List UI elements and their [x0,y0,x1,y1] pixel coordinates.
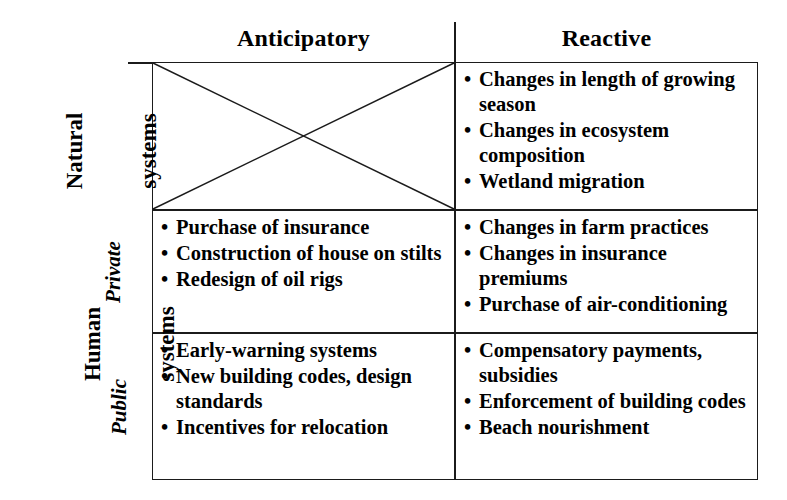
row-sub-label-public: Public [109,357,135,457]
adaptation-matrix: Anticipatory Reactive Natural systems Hu… [0,0,787,500]
row-group-label-human-systems: Human systems [31,249,91,439]
top-rule-extension [128,62,154,64]
list-item: Compensatory payments, subsidies [464,338,752,388]
list-item: Changes in ecosystem composition [464,118,752,168]
list-item: Changes in length of growing season [464,67,752,117]
list-item: Changes in farm practices [464,215,752,240]
list-item: Purchase of air-conditioning [464,292,752,317]
bullet-list-public-reactive: Compensatory payments, subsidies Enforce… [464,338,752,440]
bullet-list-public-anticipatory: Early-warning systems New building codes… [161,338,448,440]
list-item: Construction of house on stilts [161,241,448,266]
list-item: Purchase of insurance [161,215,448,240]
cell-natural-reactive: Changes in length of growing season Chan… [456,63,758,209]
bullet-list-natural-reactive: Changes in length of growing season Chan… [464,67,752,194]
list-item: Incentives for relocation [161,415,448,440]
cell-natural-anticipatory [153,63,454,209]
cell-public-anticipatory: Early-warning systems New building codes… [153,334,454,480]
list-item: Wetland migration [464,169,752,194]
cell-private-reactive: Changes in farm practices Changes in ins… [456,211,758,332]
list-item: Beach nourishment [464,415,752,440]
bullet-list-private-anticipatory: Purchase of insurance Construction of ho… [161,215,448,292]
header-column-divider [454,22,456,63]
list-item: Changes in insurance premiums [464,241,752,291]
cell-private-anticipatory: Purchase of insurance Construction of ho… [153,211,454,332]
list-item: New building codes, design standards [161,364,448,414]
list-item: Early-warning systems [161,338,448,363]
column-header-reactive: Reactive [455,26,758,50]
row-sub-label-private: Private [103,222,129,322]
row-group-label-natural-systems: Natural systems [13,76,73,226]
bullet-list-private-reactive: Changes in farm practices Changes in ins… [464,215,752,317]
cell-public-reactive: Compensatory payments, subsidies Enforce… [456,334,758,480]
list-item: Redesign of oil rigs [161,267,448,292]
row-group-label-natural-line1: Natural [63,76,88,226]
list-item: Enforcement of building codes [464,389,752,414]
column-header-anticipatory: Anticipatory [152,26,455,50]
